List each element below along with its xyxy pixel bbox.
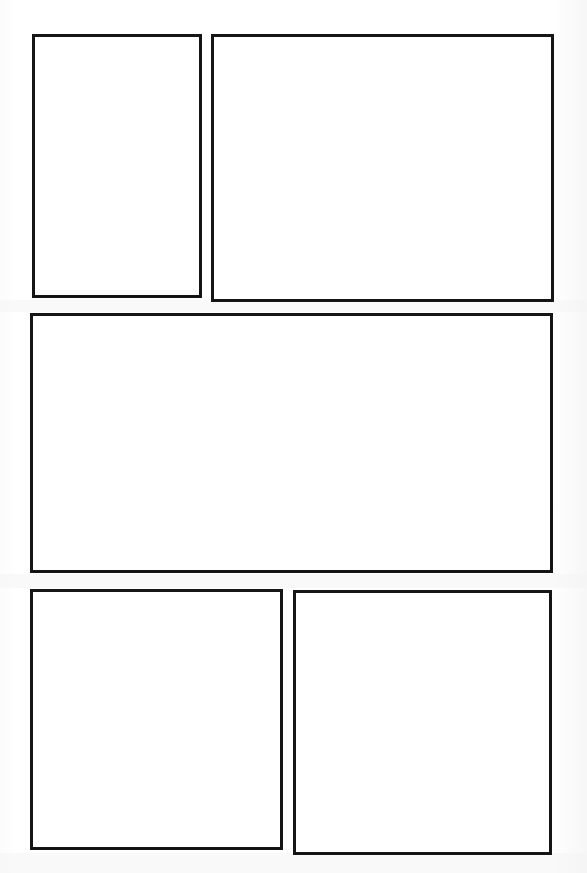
panel-top-right-content [214,37,551,299]
panel-top-left[interactable] [32,34,202,298]
panel-middle-wide-content [33,316,550,570]
panel-middle-wide[interactable] [30,313,553,573]
scan-band [0,853,587,873]
panel-bottom-right[interactable] [293,590,552,855]
scan-band [0,574,587,588]
panel-top-right[interactable] [211,34,554,302]
comic-page [0,0,587,873]
panel-bottom-left[interactable] [30,589,283,850]
panel-top-left-content [35,37,199,295]
panel-bottom-right-content [296,593,549,852]
panel-bottom-left-content [33,592,280,847]
